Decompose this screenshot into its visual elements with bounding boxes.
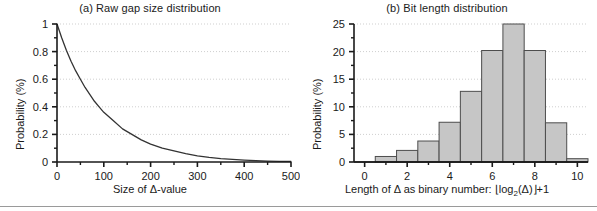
panel-x-tick-label: 8 (532, 170, 538, 182)
panel-y-tick-label: 0.6 (33, 73, 48, 85)
histogram-bar (524, 51, 545, 163)
footer-divider (0, 206, 597, 207)
panel-x-tick-label: 300 (188, 170, 206, 182)
panel-y-tick-label: 5 (339, 128, 345, 140)
panel-y-tick-label: 15 (333, 73, 345, 85)
histogram-bar (503, 24, 524, 162)
panel-x-tick-label: 10 (571, 170, 583, 182)
panel-b: (b) Bit length distribution Probability … (297, 0, 597, 211)
panel-b-x-label-mid: as binary number: (401, 183, 495, 195)
panel-y-tick-label: 0 (42, 156, 48, 168)
panel-y-tick-label: 20 (333, 46, 345, 58)
panel-x-tick-label: 400 (235, 170, 253, 182)
histogram-bar (482, 51, 503, 163)
panel-y-tick-label: 0.2 (33, 128, 48, 140)
histogram-bar (460, 91, 481, 162)
histogram-bar (397, 150, 418, 162)
panel-y-tick-label: 25 (333, 18, 345, 30)
panel-y-tick-label: 10 (333, 101, 345, 113)
panel-y-tick-label: 0 (339, 156, 345, 168)
panel-a-plot: 00.20.40.60.810100200300400500 (0, 0, 300, 211)
panel-b-x-label-log: log (499, 183, 514, 195)
panel-x-tick-label: 2 (404, 170, 410, 182)
panel-x-tick-label: 100 (95, 170, 113, 182)
panel-x-tick-label: 200 (141, 170, 159, 182)
panel-x-tick-label: 0 (54, 170, 60, 182)
panel-a-x-axis-label-text: Size of Δ-value (113, 183, 187, 195)
histogram-bar (439, 122, 460, 162)
panel-a: (a) Raw gap size distribution Probabilit… (0, 0, 300, 211)
panel-x-tick-label: 4 (447, 170, 453, 182)
panel-b-plot: 05101520250246810 (297, 0, 597, 211)
panel-b-x-label-prefix: Length of (345, 183, 394, 195)
panel-y-tick-label: 0.8 (33, 46, 48, 58)
panel-b-x-label-arg: (Δ) (518, 183, 533, 195)
panel-x-tick-label: 6 (489, 170, 495, 182)
panel-y-tick-label: 0.4 (33, 101, 48, 113)
histogram-bar (375, 156, 396, 162)
panel-x-tick-label: 0 (362, 170, 368, 182)
panel-a-x-axis-label: Size of Δ-value (0, 183, 300, 195)
histogram-bar (545, 123, 566, 162)
histogram-bar (418, 141, 439, 162)
panel-y-tick-label: 1 (42, 18, 48, 30)
panel-b-x-axis-label: Length of Δ as binary number: ⌊log2(Δ)⌋+… (297, 183, 597, 198)
panel-b-x-label-plus: +1 (537, 183, 550, 195)
decay-curve (57, 24, 291, 161)
figure-root: (a) Raw gap size distribution Probabilit… (0, 0, 597, 211)
panel-b-x-label-symbol: Δ (394, 183, 401, 195)
